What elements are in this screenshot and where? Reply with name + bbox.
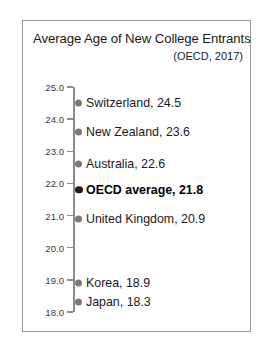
point-label: Australia, 22.6 [86,157,165,171]
point-label: Switzerland, 24.5 [86,96,181,110]
y-tick-label: 19.0 [23,274,64,285]
y-tick-mark [67,279,73,280]
y-tick-mark [67,215,73,216]
y-tick-mark [67,311,73,312]
y-tick-label: 20.0 [23,242,64,253]
y-tick-mark [67,183,73,184]
point-marker-icon [75,186,83,194]
point-marker-icon [75,215,82,222]
y-tick-mark [67,247,73,248]
point-marker-icon [75,161,82,168]
point-label: New Zealand, 23.6 [86,125,190,139]
y-tick-label: 18.0 [23,307,64,318]
y-tick-label: 25.0 [23,82,64,93]
y-axis-line [73,87,75,312]
y-tick-label: 21.0 [23,210,64,221]
y-tick-label: 23.0 [23,146,64,157]
point-label: Japan, 18.3 [86,295,151,309]
y-tick-mark [67,86,73,87]
point-marker-icon [75,280,82,287]
y-tick-mark [67,151,73,152]
point-label: Korea, 18.9 [86,276,150,290]
point-label: OECD average, 21.8 [86,183,203,197]
plot-area: 25.024.023.022.021.020.019.018.0 Switzer… [23,21,252,333]
point-marker-icon [75,299,82,306]
point-marker-icon [75,129,82,136]
point-marker-icon [75,100,82,107]
y-tick-mark [67,118,73,119]
y-tick-label: 22.0 [23,178,64,189]
point-label: United Kingdom, 20.9 [86,212,205,226]
chart-panel: Average Age of New College Entrants (OEC… [22,20,251,332]
y-tick-label: 24.0 [23,114,64,125]
